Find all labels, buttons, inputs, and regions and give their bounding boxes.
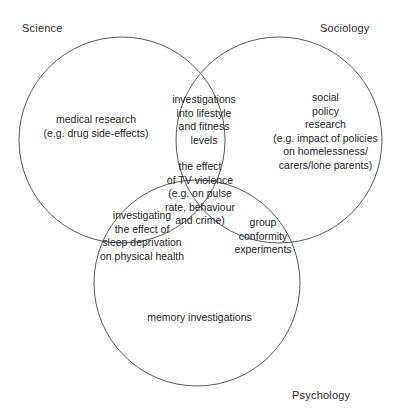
set-label-sociology: Sociology (320, 22, 370, 34)
set-label-science: Science (22, 22, 63, 34)
region-label-sociology-only: social policy research (e.g. impact of p… (256, 91, 395, 172)
region-label-all-three: the effect of TV violence (e.g. on pulse… (145, 160, 255, 228)
region-label-science-only: medical research (e.g. drug side-effects… (26, 113, 166, 140)
region-label-science-sociology: investigations into lifestyle and fitnes… (157, 93, 251, 147)
venn-diagram: Science Sociology Psychology medical res… (0, 0, 401, 420)
set-label-psychology: Psychology (292, 389, 350, 401)
region-label-psychology-only: memory investigations (107, 311, 292, 325)
